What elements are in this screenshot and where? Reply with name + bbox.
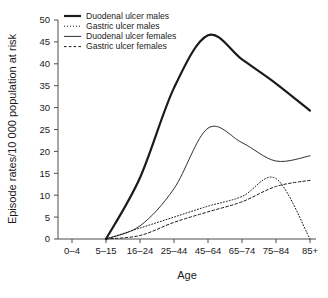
y-tick-label: 15 xyxy=(39,168,50,179)
x-tick-label: 65–74 xyxy=(229,245,255,256)
y-tick-label: 0 xyxy=(45,233,50,244)
x-tick-label: 25–44 xyxy=(161,245,187,256)
y-tick-label: 25 xyxy=(39,124,50,135)
x-tick-label: 75–84 xyxy=(263,245,289,256)
series-line-gastric-ulcer-females xyxy=(106,180,310,239)
y-tick-label: 10 xyxy=(39,190,50,201)
chart-legend: Duodenal ulcer malesGastric ulcer malesD… xyxy=(64,11,176,52)
line-chart: 05101520253035404550 0–45–1516–2425–4445… xyxy=(0,0,328,298)
x-axis-ticks: 0–45–1516–2425–4445–6465–7475–8485+ xyxy=(64,239,318,256)
series-lines xyxy=(106,35,310,239)
y-tick-label: 45 xyxy=(39,36,50,47)
x-axis-title: Age xyxy=(177,269,197,281)
y-tick-label: 20 xyxy=(39,146,50,157)
y-axis-ticks: 05101520253035404550 xyxy=(39,14,58,244)
x-tick-label: 5–15 xyxy=(95,245,116,256)
x-tick-label: 0–4 xyxy=(64,245,80,256)
legend-label: Gastric ulcer females xyxy=(86,41,167,51)
y-tick-label: 40 xyxy=(39,58,50,69)
series-line-duodenal-ulcer-males xyxy=(106,35,310,239)
y-axis-title: Episode rates/10 000 population at risk xyxy=(6,33,18,224)
legend-label: Duodenal ulcer females xyxy=(86,31,176,41)
x-tick-label: 16–24 xyxy=(127,245,153,256)
x-tick-label: 45–64 xyxy=(195,245,221,256)
chart-figure: 05101520253035404550 0–45–1516–2425–4445… xyxy=(0,0,328,298)
legend-label: Gastric ulcer males xyxy=(86,21,160,31)
x-tick-label: 85+ xyxy=(302,245,319,256)
y-tick-label: 30 xyxy=(39,102,50,113)
y-tick-label: 50 xyxy=(39,14,50,25)
legend-label: Duodenal ulcer males xyxy=(86,11,169,21)
y-tick-label: 5 xyxy=(45,212,50,223)
y-tick-label: 35 xyxy=(39,80,50,91)
